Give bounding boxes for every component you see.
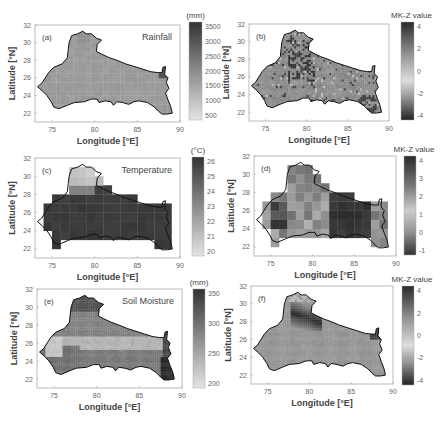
x-tick-label: 90 xyxy=(389,388,397,395)
y-tick-label: 32 xyxy=(239,283,247,290)
colorbar-tick-label: 0 xyxy=(417,332,421,339)
x-tick-label: 85 xyxy=(347,388,355,395)
colorbar-tick-label: -2 xyxy=(417,354,423,361)
y-tick-label: 24 xyxy=(239,354,247,361)
map-f: 75808590323028262422Longitude [°E]Latitu… xyxy=(0,0,446,422)
y-axis-label: Latitude [°N] xyxy=(223,308,233,362)
colorbar-tick-label: 2 xyxy=(417,310,421,317)
y-tick-label: 26 xyxy=(239,336,247,343)
panel-f: 75808590323028262422Longitude [°E]Latitu… xyxy=(0,0,446,422)
colorbar-label: MK-Z value xyxy=(392,275,433,284)
x-axis-label: Longitude [°E] xyxy=(291,398,353,408)
x-tick-label: 80 xyxy=(306,388,314,395)
y-tick-label: 30 xyxy=(239,300,247,307)
colorbar xyxy=(402,286,414,385)
y-tick-label: 22 xyxy=(239,372,247,379)
colorbar-tick-label: 4 xyxy=(417,287,421,294)
colorbar-tick-label: -4 xyxy=(417,377,423,384)
x-tick-label: 75 xyxy=(264,388,272,395)
panel-letter: (f) xyxy=(258,294,266,303)
y-tick-label: 28 xyxy=(239,318,247,325)
